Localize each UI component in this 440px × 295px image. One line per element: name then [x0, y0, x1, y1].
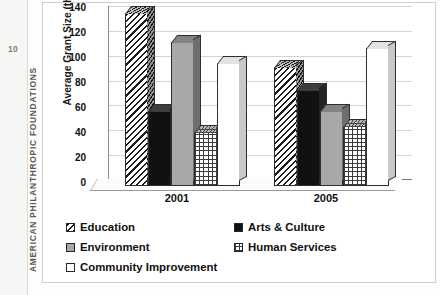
bar-2005-education [274, 67, 297, 186]
legend-swatch-community-improvement-icon [66, 263, 75, 272]
legend-item-environment: Environment [66, 241, 150, 253]
scanned-page: 10 AMERICAN PHILANTHROPIC FOUNDATIONS Av… [0, 0, 440, 295]
bar-2001-environment [171, 42, 194, 186]
bar-chart: Average Grant Size (thousands) 140 120 1… [42, 0, 436, 218]
bar-2005-human-services [343, 126, 366, 186]
bar-2005-environment [320, 111, 343, 186]
y-axis-line [108, 6, 109, 180]
y-tick-label-80: 80 [60, 78, 86, 88]
y-tick-label-60: 60 [60, 103, 86, 113]
y-tick-label-120: 120 [60, 28, 86, 38]
y-tick-label-140: 140 [60, 3, 86, 13]
y-tick-label-20: 20 [60, 153, 86, 163]
x-tick-label-2001: 2001 [137, 192, 217, 204]
legend-label-education: Education [80, 221, 135, 233]
bar-2001-community-improvement [217, 63, 240, 186]
legend-item-human-services: Human Services [234, 241, 337, 253]
legend-item-arts-culture: Arts & Culture [234, 221, 325, 233]
y-tick-label-100: 100 [60, 53, 86, 63]
legend-swatch-education-icon [66, 223, 75, 232]
bar-2001-human-services [194, 132, 217, 186]
legend-swatch-environment-icon [66, 243, 75, 252]
bar-2005-community-improvement [366, 48, 389, 186]
legend-label-human-services: Human Services [248, 241, 337, 253]
legend-swatch-human-services-icon [234, 243, 243, 252]
legend-item-community-improvement: Community Improvement [66, 261, 217, 273]
bar-side-face [388, 41, 396, 181]
page-number: 10 [1, 44, 25, 54]
legend-label-environment: Environment [80, 241, 150, 253]
bar-2005-arts-culture [297, 90, 320, 186]
bar-side-face [239, 56, 247, 181]
y-tick-label-40: 40 [60, 128, 86, 138]
running-head-title: AMERICAN PHILANTHROPIC FOUNDATIONS [28, 82, 38, 272]
legend-swatch-arts-culture-icon [234, 223, 243, 232]
plot-area [97, 6, 412, 186]
legend-label-arts-culture: Arts & Culture [248, 221, 325, 233]
x-tick-label-2005: 2005 [286, 192, 366, 204]
bar-2001-arts-culture [148, 111, 171, 186]
bar-2001-education [125, 13, 148, 186]
legend-label-community-improvement: Community Improvement [80, 261, 217, 273]
legend-item-education: Education [66, 221, 135, 233]
y-tick-label-0: 0 [60, 178, 86, 188]
